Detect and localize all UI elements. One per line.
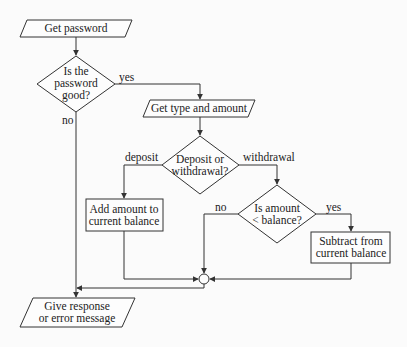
node-password-good: Is the password good?: [37, 56, 115, 112]
edge-password-yes: [115, 84, 200, 99]
edge-label-deposit: deposit: [125, 151, 159, 164]
edge-label-password-yes: yes: [119, 71, 135, 84]
node-give-response: Give response or error message: [20, 298, 135, 327]
node-label: < balance?: [252, 214, 302, 226]
node-label: withdrawal?: [172, 165, 229, 177]
node-label: Is the: [63, 65, 88, 77]
node-deposit-or-withdrawal: Deposit or withdrawal?: [162, 136, 239, 194]
node-label: good?: [62, 89, 90, 102]
node-get-password: Get password: [20, 20, 132, 37]
node-label: Add amount to: [90, 203, 159, 215]
edge-deposit: [124, 165, 162, 198]
edge-label-password-no: no: [62, 114, 74, 126]
edge-merge-to-output: [77, 284, 204, 288]
node-amount-lt-balance: Is amount < balance?: [238, 185, 316, 243]
edge-label-balance-no: no: [215, 201, 227, 213]
node-add-amount: Add amount to current balance: [86, 199, 163, 231]
edge-withdrawal: [239, 165, 277, 184]
edge-add-to-merge: [124, 231, 198, 279]
flowchart-canvas: Get password Is the password good? yes n…: [0, 0, 407, 347]
edge-balance-yes: [316, 214, 351, 231]
node-label: current balance: [89, 215, 160, 227]
edge-label-balance-yes: yes: [326, 201, 342, 214]
node-label: Subtract from: [319, 235, 383, 247]
merge-connector: [199, 274, 209, 284]
edge-label-withdrawal: withdrawal: [243, 151, 295, 163]
node-label: current balance: [316, 247, 387, 259]
edge-balance-no: [204, 214, 238, 273]
node-label: Get type and amount: [151, 102, 248, 115]
node-label: Is amount: [254, 202, 300, 214]
node-label: or error message: [39, 312, 116, 325]
node-label: Get password: [45, 22, 108, 35]
node-get-type-amount: Get type and amount: [143, 100, 255, 117]
node-subtract: Subtract from current balance: [311, 232, 390, 263]
edge-subtract-to-merge: [210, 263, 351, 279]
